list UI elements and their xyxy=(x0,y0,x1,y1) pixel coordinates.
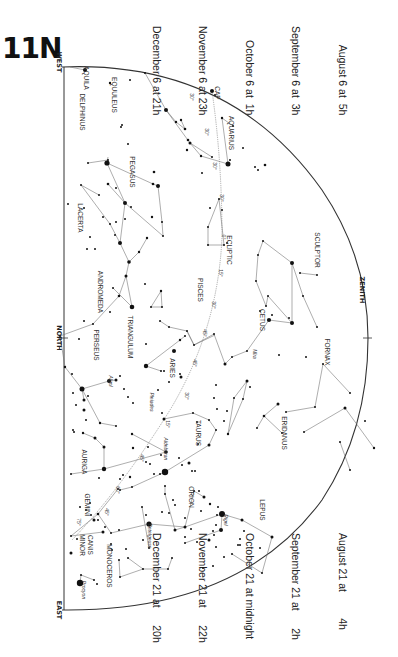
star xyxy=(167,568,169,570)
star xyxy=(118,241,122,245)
star xyxy=(373,447,375,449)
star xyxy=(181,464,183,466)
star xyxy=(80,387,85,392)
constellation-line xyxy=(93,296,119,324)
star xyxy=(144,72,146,74)
star xyxy=(102,531,105,534)
star xyxy=(153,473,155,475)
star xyxy=(93,519,96,522)
star xyxy=(231,553,233,555)
star xyxy=(146,237,148,239)
star xyxy=(180,119,182,121)
star xyxy=(109,223,111,225)
constellation-line xyxy=(187,331,194,345)
star xyxy=(168,326,170,328)
star xyxy=(223,556,225,558)
constellation-line xyxy=(262,537,272,573)
star xyxy=(150,306,152,308)
constellation-line xyxy=(158,186,162,222)
constellation-line xyxy=(190,143,201,156)
constellation-line xyxy=(107,163,125,203)
constellation-line xyxy=(232,554,262,573)
star xyxy=(109,311,111,313)
star xyxy=(114,234,116,236)
constellation-line xyxy=(292,263,303,296)
star xyxy=(131,486,133,488)
star xyxy=(200,155,202,157)
constellation-label: TAURUS xyxy=(195,420,202,447)
star xyxy=(186,330,188,332)
star xyxy=(141,506,143,508)
constellation-label: EQUULEUS xyxy=(110,77,118,113)
star xyxy=(149,463,151,465)
star xyxy=(127,143,129,145)
constellation-label: AURIGA xyxy=(81,450,88,476)
star xyxy=(249,386,251,388)
constellation-line xyxy=(111,524,149,533)
star xyxy=(202,567,204,569)
constellation-line xyxy=(300,273,317,275)
star xyxy=(160,454,162,456)
star xyxy=(239,544,241,546)
star xyxy=(118,529,120,531)
star xyxy=(302,295,304,297)
constellation-line xyxy=(149,524,185,527)
star xyxy=(364,420,366,422)
star xyxy=(219,528,223,532)
constellation-line xyxy=(286,407,315,412)
star xyxy=(94,437,97,440)
constellation-line xyxy=(228,399,243,434)
constellation-line xyxy=(81,185,110,224)
star xyxy=(123,201,127,205)
star xyxy=(112,287,114,289)
star xyxy=(210,89,214,93)
star xyxy=(79,506,81,508)
star xyxy=(207,244,209,246)
ecliptic-tick-label: 15° xyxy=(218,269,224,277)
constellation-line xyxy=(168,558,172,569)
star xyxy=(184,335,186,337)
star xyxy=(208,419,210,421)
ecliptic-line xyxy=(72,91,222,540)
star xyxy=(98,477,100,479)
constellation-line xyxy=(82,389,100,423)
star xyxy=(246,380,249,383)
star xyxy=(241,519,244,522)
star xyxy=(174,504,176,506)
constellation-line xyxy=(315,364,323,407)
constellation-line xyxy=(108,184,125,203)
star xyxy=(184,517,186,519)
constellation-line xyxy=(95,438,104,447)
star xyxy=(189,142,192,145)
star xyxy=(78,338,80,340)
constellation-line xyxy=(209,430,216,445)
star xyxy=(161,511,163,513)
star xyxy=(231,356,233,358)
star xyxy=(239,538,241,540)
constellation-line xyxy=(81,575,94,580)
star xyxy=(237,544,239,546)
star xyxy=(147,446,149,448)
constellation-line xyxy=(323,364,350,393)
constellation-line xyxy=(71,532,103,536)
star-name-label: Mira xyxy=(252,349,258,359)
constellation-line xyxy=(160,321,169,327)
constellation-label: LACERTA xyxy=(77,203,84,233)
star xyxy=(349,392,351,394)
constellation-line xyxy=(162,222,163,236)
star xyxy=(125,548,127,550)
constellation-line xyxy=(169,327,187,331)
ecliptic-tick-label: 45° xyxy=(192,359,198,367)
star xyxy=(246,350,248,352)
star-name-label: Betelgeuse xyxy=(147,523,153,548)
star xyxy=(73,431,75,433)
star xyxy=(162,469,168,475)
constellation-line xyxy=(256,255,258,281)
constellation-line xyxy=(222,118,228,164)
constellation-line xyxy=(209,420,216,430)
star xyxy=(164,108,168,112)
constellation-line xyxy=(71,514,98,536)
star xyxy=(277,403,280,406)
star-name-label: Aldebaran xyxy=(163,437,169,461)
star xyxy=(164,485,166,487)
